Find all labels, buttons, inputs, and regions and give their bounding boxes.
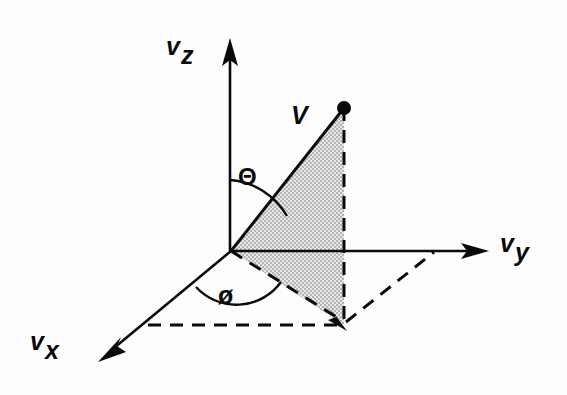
- figure-canvas: vz vx vy V Θ ø: [0, 0, 567, 395]
- vector-label-v: V: [291, 101, 308, 130]
- phi-angle-arc: [196, 282, 281, 305]
- axis-label-vz-base: v: [166, 32, 180, 60]
- axis-label-vy-sub: y: [515, 238, 529, 266]
- axis-label-vz: vz: [166, 32, 192, 61]
- axis-label-vx-sub: x: [45, 336, 59, 364]
- y-component-guide-dashed: [346, 252, 434, 322]
- angle-label-phi: ø: [218, 281, 233, 310]
- angle-label-theta: Θ: [238, 163, 257, 191]
- axis-label-vz-sub: z: [181, 41, 194, 69]
- axis-label-vy: vy: [500, 229, 528, 258]
- axis-label-vx-base: v: [30, 327, 44, 355]
- shaded-vertical-plane: [231, 108, 344, 325]
- vector-diagram-svg: [0, 0, 567, 395]
- axis-label-vy-base: v: [500, 229, 514, 257]
- axis-label-vx: vx: [30, 327, 58, 356]
